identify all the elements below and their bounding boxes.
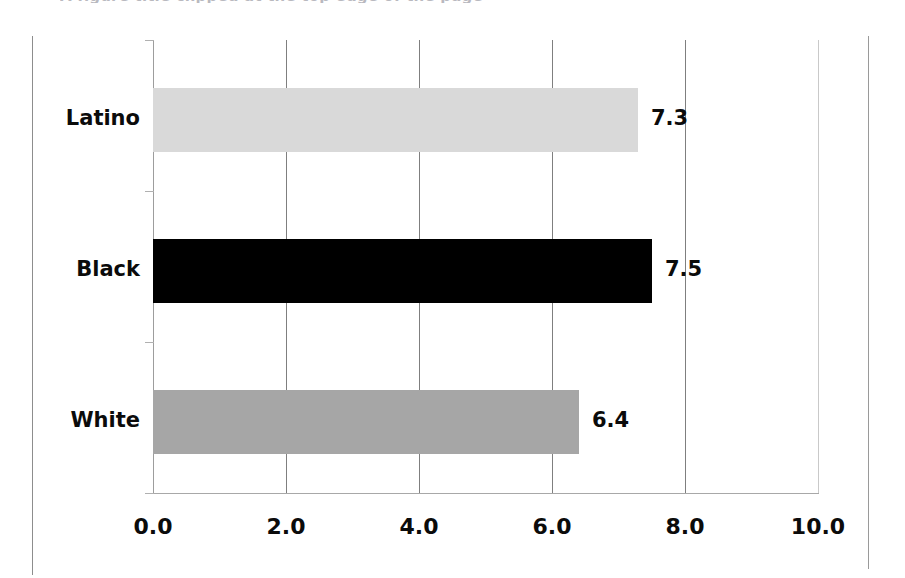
x-tick-label-6: 6.0 [492,514,612,539]
category-label-latino: Latino [60,106,140,130]
value-label-latino: 7.3 [651,106,688,130]
category-tick [145,191,154,192]
clipped-title-remnant: A figure title clipped at the top edge o… [60,0,780,3]
bar-latino[interactable] [153,88,638,152]
value-label-black: 7.5 [665,257,702,281]
x-tick-label-8: 8.0 [625,514,745,539]
category-label-white: White [60,408,140,432]
page-rule-right [868,36,869,569]
x-tick-label-4: 4.0 [359,514,479,539]
bar-white[interactable] [153,390,579,454]
value-label-white: 6.4 [592,408,629,432]
category-tick [145,40,154,41]
category-tick [145,493,154,494]
x-tick-label-10: 10.0 [758,514,878,539]
bar-black[interactable] [153,239,652,303]
category-tick [145,342,154,343]
x-tick-label-0: 0.0 [93,514,213,539]
page-rule-left [32,36,33,575]
gridline-10 [818,40,819,493]
category-label-black: Black [60,257,140,281]
x-tick-label-2: 2.0 [226,514,346,539]
bar-chart-figure: A figure title clipped at the top edge o… [0,0,905,578]
x-axis-line [153,493,819,494]
